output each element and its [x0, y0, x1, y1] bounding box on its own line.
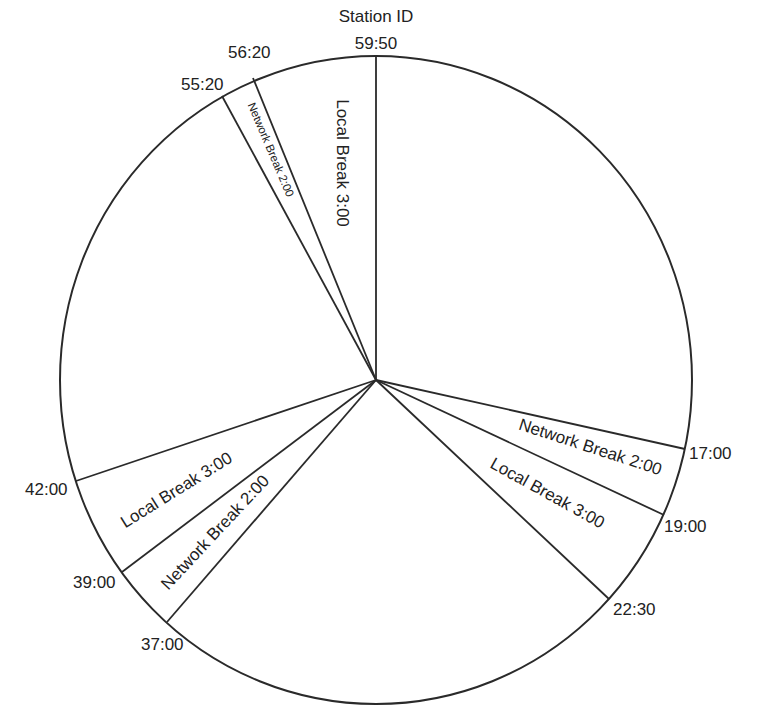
time-markers: 59:50 17:00 19:00 22:30 37:00 39:00 42:0… [25, 34, 732, 654]
segment-label-network-break-17: Network Break 2:00 [516, 415, 664, 479]
segment-labels: Network Break 2:00 Local Break 3:00 Netw… [117, 99, 664, 593]
time-marker-59-50: 59:50 [355, 34, 398, 53]
divider-39-00 [122, 380, 376, 572]
time-marker-22-30: 22:30 [613, 600, 656, 619]
diagram-title: Station ID [339, 7, 414, 26]
time-marker-17-00: 17:00 [689, 444, 732, 463]
divider-17-00 [376, 380, 685, 449]
time-marker-39-00: 39:00 [73, 573, 116, 592]
segment-label-local-break-19: Local Break 3:00 [487, 454, 608, 532]
time-marker-19-00: 19:00 [664, 517, 707, 536]
time-marker-37-00: 37:00 [141, 635, 184, 654]
time-marker-56-20: 56:20 [228, 43, 271, 62]
segment-label-network-break-55: Network Break 2:00 [246, 101, 297, 199]
divider-55-20 [222, 96, 376, 380]
time-marker-42-00: 42:00 [25, 480, 68, 499]
segment-label-local-break-56: Local Break 3:00 [333, 99, 352, 227]
divider-56-20 [253, 78, 376, 380]
radial-dividers [76, 56, 685, 622]
divider-37-00 [167, 380, 376, 622]
time-marker-55-20: 55:20 [181, 75, 224, 94]
hour-clock-diagram: Station ID 59:50 17:00 19:00 22:30 37:00… [0, 0, 758, 724]
divider-22-30 [376, 380, 609, 599]
